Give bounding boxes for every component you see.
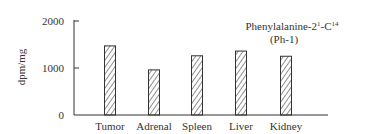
y-tick-label: 0 bbox=[59, 109, 65, 121]
x-tick-labels: TumorAdrenalSpleenLiverKidney bbox=[95, 120, 302, 132]
bars bbox=[105, 46, 292, 115]
x-tick-label: Kidney bbox=[270, 120, 303, 132]
x-tick-label: Liver bbox=[229, 120, 253, 132]
y-tick-labels: 010002000 bbox=[42, 15, 65, 121]
x-tick-label: Adrenal bbox=[136, 120, 171, 132]
y-axis-label: dpm/mg bbox=[15, 48, 27, 85]
annotation: Phenylalanine-21-C14 (Ph-1) bbox=[246, 20, 339, 46]
bar-adrenal bbox=[149, 70, 160, 115]
bar-chart: dpm/mg 010002000 TumorAdrenalSpleenLiver… bbox=[0, 0, 367, 134]
bar-tumor bbox=[105, 46, 116, 115]
bar-kidney bbox=[281, 56, 292, 115]
x-tick-label: Spleen bbox=[182, 120, 212, 132]
x-tick-label: Tumor bbox=[95, 120, 125, 132]
bar-spleen bbox=[192, 56, 203, 115]
annotation-line-1: Phenylalanine-21-C14 bbox=[246, 20, 339, 32]
y-tick-label: 2000 bbox=[42, 15, 65, 27]
y-ticks bbox=[74, 21, 79, 68]
annotation-line-2: (Ph-1) bbox=[270, 33, 298, 46]
y-tick-label: 1000 bbox=[42, 62, 65, 74]
bar-liver bbox=[236, 51, 247, 115]
